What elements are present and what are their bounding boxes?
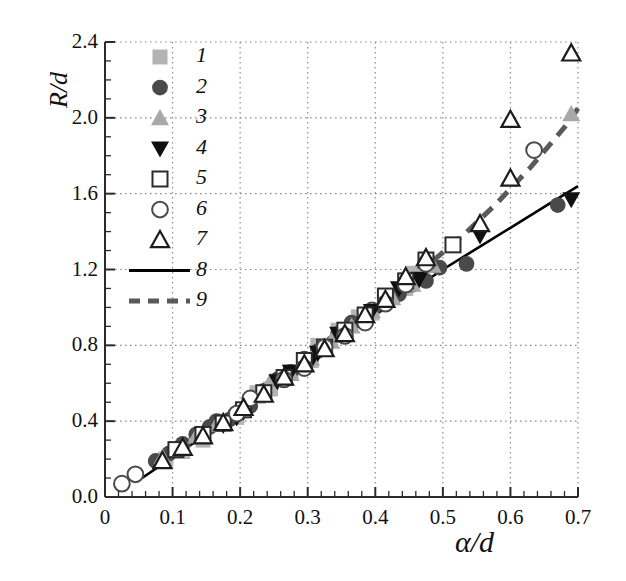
legend-label-9: 9 [196, 286, 207, 312]
legend-marker-1 [153, 50, 168, 65]
legend-markers [0, 0, 626, 581]
legend-label-5: 5 [196, 164, 207, 190]
legend-marker-4 [151, 141, 169, 157]
legend-label-4: 4 [196, 134, 207, 160]
legend-label-2: 2 [196, 73, 207, 99]
legend-label-6: 6 [196, 195, 207, 221]
legend-marker-5 [153, 172, 168, 187]
legend-marker-7 [151, 231, 169, 247]
figure-root: R/d α/d 0.00.40.81.21.62.02.400.10.20.30… [0, 0, 626, 581]
legend-label-8: 8 [196, 256, 207, 282]
legend-label-3: 3 [196, 103, 207, 129]
legend-marker-3 [151, 109, 169, 125]
legend-label-1: 1 [196, 42, 207, 68]
legend-label-7: 7 [196, 225, 207, 251]
legend-marker-6 [152, 202, 168, 218]
legend-marker-2 [152, 80, 168, 96]
legend: 123456789 [0, 0, 626, 581]
